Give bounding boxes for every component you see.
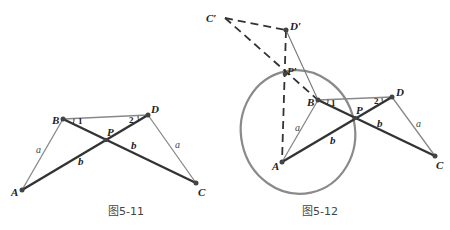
label-D: D: [395, 86, 404, 98]
label-P: P: [107, 126, 114, 138]
label-D: D: [150, 103, 159, 115]
label-A: A: [271, 160, 279, 172]
svg-text:b: b: [330, 134, 336, 146]
caption-5-12: 图5-12: [302, 205, 338, 218]
svg-text:b: b: [131, 139, 137, 151]
label-B: B: [51, 114, 59, 126]
figure-5-11: B D P A C 1 2 a a b b 图5-11: [10, 103, 206, 218]
svg-text:a: a: [36, 144, 41, 155]
label-C-prime: C′: [206, 12, 216, 24]
svg-text:1: 1: [331, 98, 336, 108]
svg-text:b: b: [377, 117, 383, 129]
label-D-prime: D′: [289, 20, 301, 32]
label-A: A: [10, 186, 18, 198]
svg-text:2: 2: [129, 115, 134, 125]
svg-text:a: a: [175, 139, 180, 150]
label-P-prime: P′: [287, 65, 297, 77]
geometry-diagram: B D P A C 1 2 a a b b 图5-11 C′ D′ P′: [0, 0, 450, 230]
svg-text:a: a: [416, 118, 421, 129]
svg-text:a: a: [295, 122, 300, 133]
label-B: B: [306, 96, 314, 108]
svg-text:1: 1: [78, 116, 83, 126]
label-P: P: [356, 104, 363, 116]
svg-text:b: b: [78, 155, 84, 167]
label-C: C: [198, 186, 206, 198]
caption-5-11: 图5-11: [108, 205, 144, 218]
svg-text:2: 2: [374, 96, 379, 106]
label-C: C: [436, 159, 444, 171]
figure-5-12: C′ D′ P′ B D P A C 1 2 a a b b 图5-12: [206, 12, 444, 218]
